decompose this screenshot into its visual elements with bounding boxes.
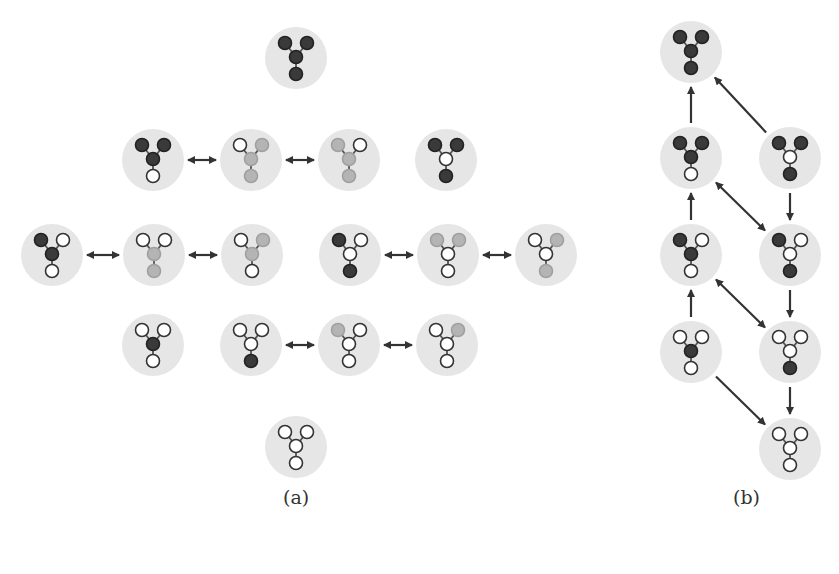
state-node-b8 (759, 418, 821, 480)
panel-b-caption: (b) (733, 486, 760, 508)
state-node-a14 (318, 314, 380, 376)
atom-top-left (137, 234, 150, 247)
atom-bottom (147, 170, 160, 183)
atom-bottom (343, 355, 356, 368)
atom-top-right (256, 139, 269, 152)
atom-top-left (235, 234, 248, 247)
atom-center (246, 248, 259, 261)
atom-top-right (795, 331, 808, 344)
atom-bottom (343, 170, 356, 183)
atom-top-right (158, 139, 171, 152)
state-node-b3 (759, 127, 821, 189)
atom-top-left (674, 137, 687, 150)
atom-top-right (257, 234, 270, 247)
state-node-a15 (416, 314, 478, 376)
atom-top-right (795, 428, 808, 441)
atom-top-left (279, 426, 292, 439)
atom-center (784, 442, 797, 455)
atom-top-right (696, 137, 709, 150)
atom-top-left (431, 234, 444, 247)
state-node-b7 (759, 321, 821, 383)
atom-bottom (784, 168, 797, 181)
atom-top-right (795, 137, 808, 150)
atom-top-right (451, 139, 464, 152)
atom-center (441, 338, 454, 351)
atom-top-right (795, 234, 808, 247)
atom-top-left (773, 137, 786, 150)
state-node-a4 (318, 129, 380, 191)
atom-center (344, 248, 357, 261)
atom-top-left (674, 31, 687, 44)
atom-top-right (354, 324, 367, 337)
state-node-a9 (319, 224, 381, 286)
atom-bottom (246, 265, 259, 278)
state-node-b1 (660, 21, 722, 83)
atom-top-left (332, 324, 345, 337)
state-node-a11 (515, 224, 577, 286)
atom-top-left (234, 139, 247, 152)
atom-top-left (35, 234, 48, 247)
atom-bottom (540, 265, 553, 278)
state-node-a13 (220, 314, 282, 376)
atom-center (343, 153, 356, 166)
atom-top-left (136, 324, 149, 337)
atom-top-right (256, 324, 269, 337)
atom-bottom (245, 170, 258, 183)
atom-center (442, 248, 455, 261)
atom-top-right (696, 331, 709, 344)
atom-top-left (674, 331, 687, 344)
atom-bottom (147, 355, 160, 368)
atom-center (147, 153, 160, 166)
state-node-b2 (660, 127, 722, 189)
transition-arrow (715, 78, 766, 133)
atom-bottom (784, 362, 797, 375)
state-node-b6 (660, 321, 722, 383)
state-node-a2 (122, 129, 184, 191)
atom-top-right (551, 234, 564, 247)
atom-bottom (290, 68, 303, 81)
atom-center (440, 153, 453, 166)
atom-top-right (453, 234, 466, 247)
atom-top-left (429, 139, 442, 152)
atom-bottom (685, 265, 698, 278)
atom-top-right (57, 234, 70, 247)
atom-center (685, 248, 698, 261)
state-node-a5 (415, 129, 477, 191)
diagram-canvas (0, 0, 839, 574)
atom-bottom (290, 457, 303, 470)
state-node-a7 (123, 224, 185, 286)
atom-bottom (685, 168, 698, 181)
atom-center (784, 151, 797, 164)
transition-arrow (716, 376, 765, 424)
state-node-a1 (265, 27, 327, 89)
atom-bottom (685, 362, 698, 375)
atom-bottom (441, 355, 454, 368)
atom-center (685, 151, 698, 164)
atom-top-left (529, 234, 542, 247)
atom-center (245, 153, 258, 166)
state-node-a8 (221, 224, 283, 286)
atom-center (245, 338, 258, 351)
atom-bottom (784, 459, 797, 472)
atom-center (343, 338, 356, 351)
atom-top-right (159, 234, 172, 247)
atom-bottom (442, 265, 455, 278)
nodes-layer (21, 21, 821, 480)
atom-center (147, 338, 160, 351)
atom-bottom (344, 265, 357, 278)
atom-top-left (279, 37, 292, 50)
atom-top-right (452, 324, 465, 337)
atom-top-right (301, 426, 314, 439)
atom-top-left (674, 234, 687, 247)
state-node-a6 (21, 224, 83, 286)
atom-top-left (430, 324, 443, 337)
state-node-b4 (660, 224, 722, 286)
atom-center (46, 248, 59, 261)
atom-center (290, 440, 303, 453)
atom-top-left (234, 324, 247, 337)
atom-top-right (354, 139, 367, 152)
atom-top-left (773, 331, 786, 344)
state-node-b5 (759, 224, 821, 286)
atom-bottom (46, 265, 59, 278)
atom-top-right (301, 37, 314, 50)
